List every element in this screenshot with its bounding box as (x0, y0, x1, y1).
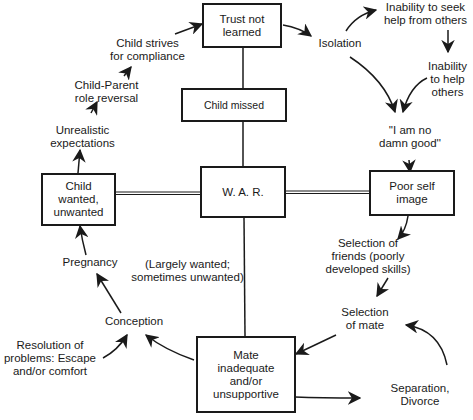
arrow-pregnancy-childwanted (80, 226, 86, 255)
label-resolution: Resolution of problems: Escape and/or co… (0, 339, 100, 378)
label-separation: Separation, Divorce (375, 382, 465, 408)
arrow-mate-separation (295, 397, 360, 398)
arrow-reversal-strives (124, 67, 131, 76)
label-selection-mate: Selection of mate (325, 306, 405, 332)
arrow-strives-trust (175, 24, 202, 34)
label-inability-help: Inability to help others (422, 60, 473, 99)
label-isolation: Isolation (310, 37, 370, 50)
box-trust-not-learned: Trust not learned (202, 3, 282, 48)
arrow-poorself-friends (398, 216, 408, 239)
label-inability-seek: Inability to seek help from others (378, 1, 473, 27)
label-largely-wanted: (Largely wanted; sometimes unwanted) (130, 258, 245, 284)
war-cycle-diagram: Trust not learned Child missed W. A. R. … (0, 0, 473, 420)
arrow-separation-mate (406, 325, 447, 365)
arrow-friends-mate (377, 278, 388, 296)
box-child-missed: Child missed (181, 88, 287, 122)
arrow-mate-conception (146, 335, 194, 360)
box-mate-inadequate: Mate inadequate and/or unsupportive (196, 336, 296, 413)
label-conception: Conception (96, 315, 172, 328)
arrow-resolution-conception (103, 335, 127, 358)
arrow-isolation-seek (346, 10, 376, 31)
arrow-trust-isolation (283, 25, 311, 36)
label-role-reversal: Child-Parent role reversal (64, 79, 149, 105)
arrow-conception-pregnancy (97, 274, 121, 313)
box-poor-self-image: Poor self image (369, 170, 455, 216)
arrow-isolation-nogood (350, 57, 395, 112)
box-child-wanted: Child wanted, unwanted (41, 173, 116, 226)
label-pregnancy: Pregnancy (55, 256, 125, 269)
label-no-good: ''I am no damn good'' (365, 124, 455, 150)
arrow-mate-box (296, 335, 336, 354)
arrow-childwanted-unrealistic (78, 150, 80, 173)
label-selection-friends: Selection of friends (poorly developed s… (318, 237, 418, 276)
box-war: W. A. R. (200, 166, 286, 218)
label-unrealistic: Unrealistic expectations (40, 124, 125, 150)
label-strives: Child strives for compliance (100, 37, 195, 63)
